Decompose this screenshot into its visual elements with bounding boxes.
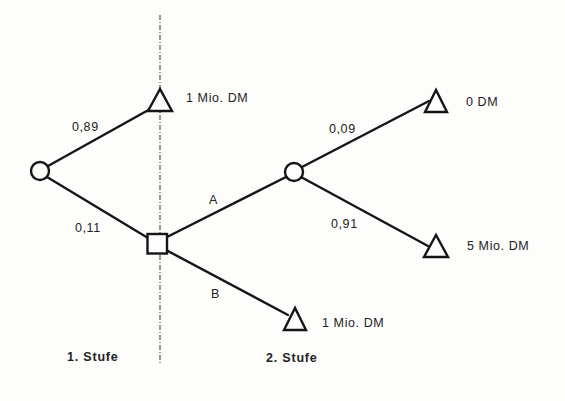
terminal-a-down-label: 5 Mio. DM: [467, 240, 529, 253]
edge-a-to-down: [301, 177, 428, 246]
edge-label-root-to-top: 0,89: [72, 121, 99, 134]
edge-decision-to-a: [167, 177, 286, 237]
terminal-b-triangle-icon: [284, 308, 306, 330]
decision-node-icon: [148, 234, 168, 254]
edge-label-a-to-down: 0,91: [331, 218, 358, 231]
edge-root-to-top: [48, 108, 152, 166]
edge-label-decision-to-a: A: [209, 194, 218, 207]
edge-decision-to-b: [166, 250, 288, 315]
terminal-b-label: 1 Mio. DM: [322, 317, 384, 330]
terminal-top-triangle-icon: [148, 89, 172, 111]
stage-1-label: 1. Stufe: [67, 351, 119, 364]
stage-2-label: 2. Stufe: [266, 352, 318, 365]
terminal-a-up-label: 0 DM: [466, 96, 498, 109]
edge-label-a-to-up: 0,09: [329, 123, 356, 136]
chance-node-root-icon: [31, 162, 49, 180]
chance-node-a-icon: [285, 163, 303, 181]
edge-a-to-up: [302, 101, 429, 167]
terminal-top-label: 1 Mio. DM: [186, 92, 248, 105]
edge-label-root-to-decision: 0,11: [75, 222, 101, 235]
decision-tree-diagram: [0, 0, 565, 401]
edge-label-decision-to-b: B: [211, 288, 220, 301]
